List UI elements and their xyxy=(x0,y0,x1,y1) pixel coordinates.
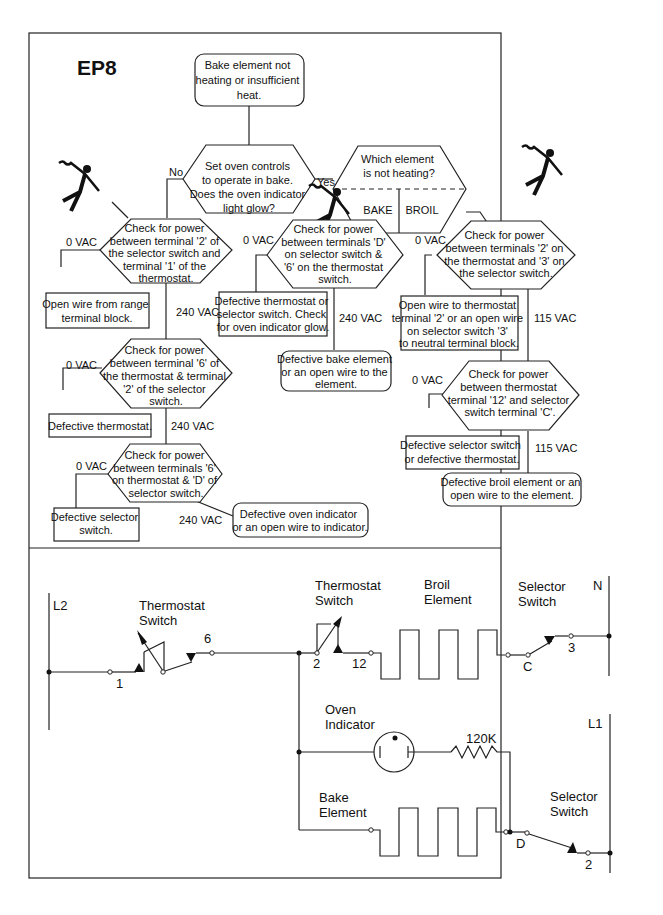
svg-text:115 VAC: 115 VAC xyxy=(535,442,577,454)
svg-text:240 VAC: 240 VAC xyxy=(339,312,382,324)
broil-option: BROIL xyxy=(405,204,438,216)
no-label: No xyxy=(169,166,183,178)
svg-text:0 VAC: 0 VAC xyxy=(66,359,97,371)
svg-text:Defective thermostat or: Defective thermostat or selector switch.… xyxy=(215,295,332,333)
l2-label: L2 xyxy=(53,598,67,613)
svg-text:240 VAC: 240 VAC xyxy=(171,420,214,432)
svg-text:Thermostat Switch: Thermostat Switch xyxy=(315,578,384,608)
svg-text:240 VAC: 240 VAC xyxy=(176,306,219,318)
svg-text:1: 1 xyxy=(116,676,123,691)
wiring-schematic: L2 1 6 Thermostat Switch 2 xyxy=(47,576,613,873)
diagram-title: EP8 xyxy=(77,56,117,79)
svg-text:12: 12 xyxy=(352,656,366,671)
svg-text:Defective broil element or an: Defective broil element or an open wire … xyxy=(440,476,583,501)
resistor-label: 120K xyxy=(466,731,497,746)
svg-text:Thermostat Switch: Thermostat Switch xyxy=(139,598,208,628)
electrical-hazard-icon xyxy=(59,162,99,212)
svg-text:Oven Indicator: Oven Indicator xyxy=(325,702,376,732)
svg-text:0 VAC: 0 VAC xyxy=(412,374,443,386)
svg-text:Defective thermostat.: Defective thermostat. xyxy=(48,420,152,432)
bake-element-symbol xyxy=(373,808,504,856)
svg-text:115 VAC: 115 VAC xyxy=(534,312,576,324)
svg-text:Defective oven indicator: Defective oven indicator or an open wire… xyxy=(232,508,367,533)
svg-text:D: D xyxy=(516,836,525,851)
svg-text:2: 2 xyxy=(585,857,592,872)
bake-option: BAKE xyxy=(363,204,392,216)
svg-text:6: 6 xyxy=(204,631,211,646)
broil-element-symbol xyxy=(373,630,505,679)
svg-text:Bake Element: Bake Element xyxy=(319,790,367,820)
svg-text:3: 3 xyxy=(568,640,575,655)
ep8-diagram: EP8 Bake element xyxy=(0,0,663,915)
svg-text:0 VAC: 0 VAC xyxy=(66,236,97,248)
svg-text:Selector Switch: Selector Switch xyxy=(550,789,601,819)
svg-text:240 VAC: 240 VAC xyxy=(179,514,222,526)
flowchart: Bake element not heating or insufficient… xyxy=(42,54,583,541)
svg-text:0 VAC: 0 VAC xyxy=(76,460,107,472)
svg-text:0 VAC: 0 VAC xyxy=(415,234,446,246)
electrical-hazard-icon xyxy=(522,146,562,196)
n-label: N xyxy=(593,578,602,593)
svg-text:2: 2 xyxy=(313,656,320,671)
svg-text:Broil Element: Broil Element xyxy=(424,577,472,607)
l1-label: L1 xyxy=(588,716,602,731)
svg-text:0 VAC: 0 VAC xyxy=(243,234,274,246)
svg-text:Selector Switch: Selector Switch xyxy=(518,579,569,609)
svg-text:C: C xyxy=(523,659,532,674)
